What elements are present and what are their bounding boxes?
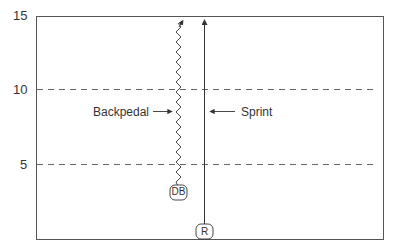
backpedal-label: Backpedal	[93, 106, 149, 118]
sprint-label: Sprint	[241, 106, 272, 118]
y-tick-10: 10	[13, 83, 27, 96]
receiver-label: R	[197, 227, 212, 237]
backpedal-path	[176, 23, 181, 186]
y-tick-15: 15	[13, 9, 27, 22]
field-diagram	[0, 0, 398, 250]
y-tick-5: 5	[20, 158, 27, 171]
defender-label: DB	[171, 187, 186, 197]
field-frame	[37, 17, 384, 240]
